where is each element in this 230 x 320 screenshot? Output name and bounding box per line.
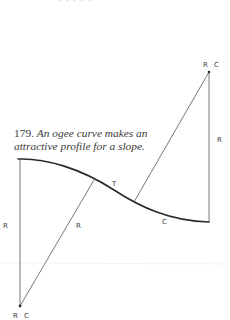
lower-center-point [19, 305, 22, 308]
figure-number: 179. [14, 127, 34, 139]
book-page: · · · · · 179. An ogee curve makes an at… [0, 0, 230, 320]
caption-text-1: An ogee curve makes an [37, 127, 148, 139]
label-tangent-point: T [112, 180, 118, 188]
upper-center-point [208, 71, 211, 74]
label-curve: C [162, 218, 169, 226]
label-lower-center: R C [13, 312, 31, 320]
label-left-radius: R [3, 222, 10, 230]
label-middle-radius: R [76, 222, 83, 230]
label-right-radius: R [217, 136, 224, 144]
lower-diagonal-radius [20, 180, 94, 306]
ogee-curve [18, 159, 209, 222]
ogee-curve-diagram [0, 0, 230, 320]
caption-line-2: attractive profile for a slope. [14, 140, 184, 153]
figure-caption: 179. An ogee curve makes an attractive p… [14, 127, 184, 153]
scan-artifact-line [0, 263, 230, 264]
label-upper-center: R C [203, 61, 221, 69]
caption-line-1: 179. An ogee curve makes an [14, 127, 184, 140]
